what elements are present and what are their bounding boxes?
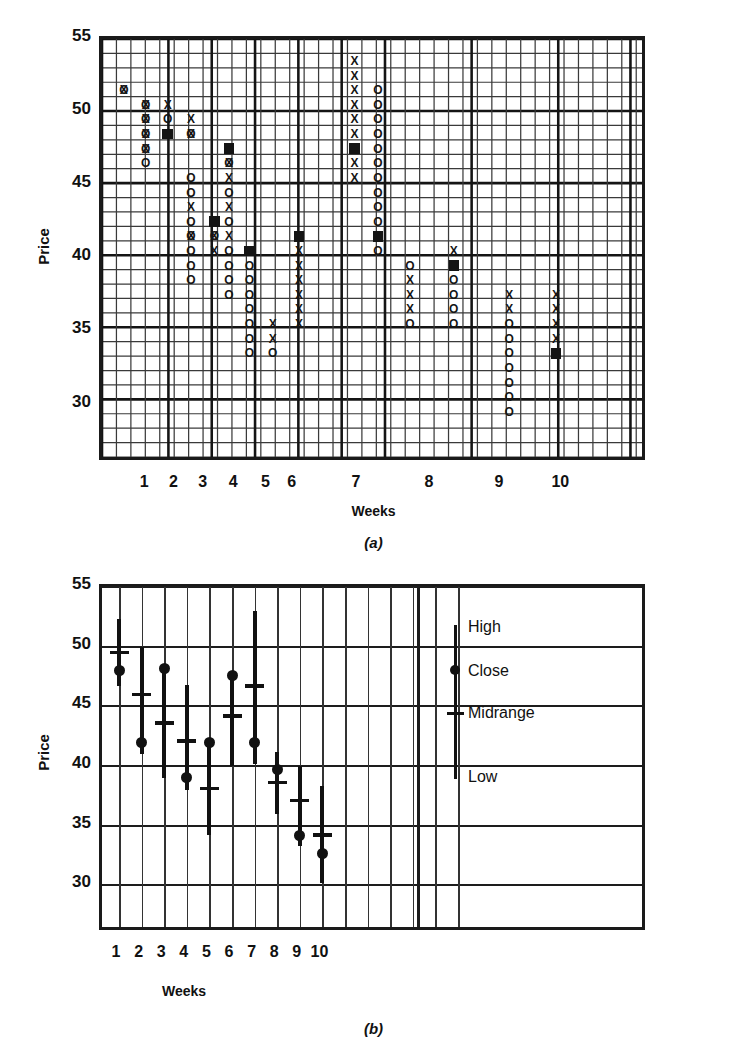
pf-x-marker: X	[140, 143, 151, 154]
pf-o-marker: O	[405, 260, 416, 271]
panel-b-legend-divider	[417, 587, 420, 927]
panel-a-x-tick: 6	[278, 474, 306, 490]
hlc-close-dot	[204, 737, 215, 748]
pf-x-marker: X	[349, 129, 360, 140]
panel-b-y-tick: 55	[51, 575, 91, 592]
pf-x-marker: X	[268, 319, 279, 330]
legend-label-low: Low	[468, 769, 497, 785]
pf-x-marker: X	[349, 56, 360, 67]
panel-a-x-tick: 10	[546, 474, 574, 490]
pf-x-marker: X	[140, 129, 151, 140]
hlc-midrange-tick	[110, 651, 129, 655]
legend-label-midrange: Midrange	[468, 705, 535, 721]
panel-b-gridline-vertical	[368, 587, 370, 927]
pf-x-marker: X	[349, 173, 360, 184]
hlc-midrange-tick	[245, 684, 264, 688]
pf-x-marker: X	[224, 231, 235, 242]
panel-b-x-tick: 10	[305, 944, 333, 960]
pf-x-marker: X	[349, 114, 360, 125]
panel-a-x-tick: 9	[485, 474, 513, 490]
pf-o-marker: O	[373, 187, 384, 198]
pf-x-marker: X	[140, 99, 151, 110]
pf-o-marker: O	[504, 377, 515, 388]
pf-x-marker: X	[405, 304, 416, 315]
pf-o-marker: O	[504, 319, 515, 330]
pf-o-marker: O	[224, 260, 235, 271]
panel-b-y-tick: 35	[51, 814, 91, 831]
pf-x-marker: X	[349, 158, 360, 169]
pf-x-marker: X	[405, 275, 416, 286]
panel-a-x-tick: 4	[219, 474, 247, 490]
panel-b-y-axis-label: Price	[35, 723, 52, 783]
pf-o-marker: O	[373, 85, 384, 96]
hlc-midrange-tick	[132, 693, 151, 697]
hlc-midrange-tick	[313, 833, 332, 837]
pf-o-marker: O	[186, 260, 197, 271]
hlc-midrange-tick	[268, 781, 287, 785]
pf-x-marker: X	[294, 275, 305, 286]
hlc-close-dot	[317, 848, 328, 859]
hlc-close-dot	[249, 737, 260, 748]
pf-o-marker: O	[162, 114, 173, 125]
hlc-range-bar	[230, 673, 234, 766]
panel-b-gridline-horizontal	[102, 586, 642, 588]
pf-o-marker: O	[186, 187, 197, 198]
panel-a-y-tick: 35	[51, 319, 91, 336]
pf-o-marker: O	[373, 143, 384, 154]
panel-a-plot-area: OXOXOXOXOXOXOXOXOOXOOXOOOXOXXXOXOXOXOOOO…	[99, 36, 645, 460]
panel-b-gridline-horizontal	[102, 825, 642, 827]
panel-a-x-tick: 3	[189, 474, 217, 490]
hlc-midrange-tick	[200, 787, 219, 791]
hlc-close-dot	[159, 663, 170, 674]
pf-close-square	[244, 246, 255, 257]
legend-label-close: Close	[468, 663, 509, 679]
pf-x-marker: X	[186, 202, 197, 213]
panel-b-gridline-horizontal	[102, 765, 642, 767]
hlc-midrange-tick	[223, 714, 242, 718]
pf-x-marker: X	[551, 290, 562, 301]
pf-x-marker: X	[224, 173, 235, 184]
pf-x-marker: X	[224, 202, 235, 213]
pf-close-square	[449, 260, 460, 271]
pf-close-square	[349, 143, 360, 154]
hlc-close-dot	[227, 670, 238, 681]
pf-x-marker: X	[294, 304, 305, 315]
pf-o-marker: O	[449, 304, 460, 315]
pf-x-marker: X	[186, 231, 197, 242]
pf-x-marker: X	[349, 70, 360, 81]
pf-o-marker: O	[373, 158, 384, 169]
pf-o-marker: O	[504, 348, 515, 359]
hlc-close-dot	[181, 772, 192, 783]
hlc-midrange-tick	[155, 721, 174, 725]
pf-o-marker: O	[405, 319, 416, 330]
pf-x-marker: X	[504, 304, 515, 315]
pf-x-marker: X	[449, 246, 460, 257]
pf-o-marker: O	[224, 246, 235, 257]
hlc-close-dot	[114, 665, 125, 676]
legend-sample-bar	[454, 625, 457, 779]
panel-b-gridline-vertical	[300, 587, 302, 927]
pf-o-marker: O	[224, 275, 235, 286]
panel-a-caption: (a)	[0, 534, 747, 551]
pf-o-marker: O	[373, 173, 384, 184]
panel-b-gridline-horizontal	[102, 884, 642, 886]
pf-o-marker: O	[140, 158, 151, 169]
pf-o-marker: O	[224, 290, 235, 301]
pf-x-marker: X	[209, 231, 220, 242]
pf-o-marker: O	[504, 407, 515, 418]
panel-b-gridline-vertical	[435, 587, 437, 927]
pf-x-marker: X	[186, 114, 197, 125]
panel-b-y-tick: 40	[51, 754, 91, 771]
panel-a-x-tick: 5	[251, 474, 279, 490]
pf-x-marker: X	[294, 246, 305, 257]
panel-a-y-tick: 30	[51, 393, 91, 410]
panel-b-gridline-horizontal	[102, 705, 642, 707]
pf-o-marker: O	[224, 216, 235, 227]
pf-o-marker: O	[186, 216, 197, 227]
pf-o-marker: O	[373, 202, 384, 213]
pf-o-marker: O	[244, 348, 255, 359]
hlc-midrange-tick	[290, 799, 309, 803]
legend-label-high: High	[468, 619, 501, 635]
pf-o-marker: O	[186, 275, 197, 286]
hlc-close-dot	[294, 830, 305, 841]
